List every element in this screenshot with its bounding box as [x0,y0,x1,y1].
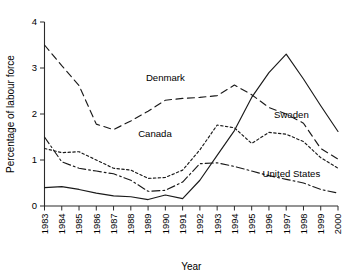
x-tick-label: 1998 [299,214,309,235]
x-axis-title: Year [181,261,202,272]
series-line-denmark [45,45,339,159]
x-tick-label: 1993 [213,214,223,235]
x-tick-label: 1990 [161,214,171,235]
line-chart: 01234 1983198419851986198719881989199019… [0,0,355,276]
x-tick-label: 1997 [282,214,292,235]
chart-container: 01234 1983198419851986198719881989199019… [0,0,355,276]
series-label-sweden: Sweden [274,109,309,120]
series-labels: DenmarkCanadaSwedenUnited States [138,72,320,180]
x-tick-label: 1983 [40,214,50,235]
y-axis-ticks: 01234 [32,16,45,211]
series-label-denmark: Denmark [146,72,185,83]
series-label-canada: Canada [138,128,172,139]
x-axis-ticks: 1983198419851986198719881989199019911992… [40,206,344,234]
x-tick-label: 1996 [264,214,274,235]
x-tick-label: 1986 [92,214,102,235]
y-axis-title: Percentage of labour force [5,55,16,173]
series-line-united-states [45,137,339,193]
y-tick-label: 1 [32,154,37,165]
y-tick-label: 4 [32,16,37,27]
y-tick-label: 2 [32,108,37,119]
x-tick-label: 2000 [333,214,343,235]
x-tick-label: 1994 [230,214,240,235]
x-tick-label: 1984 [57,214,67,235]
x-tick-label: 1995 [247,214,257,235]
y-tick-label: 0 [32,200,37,211]
x-tick-label: 1989 [143,214,153,235]
x-tick-label: 1992 [195,214,205,235]
x-tick-label: 1991 [178,214,188,235]
y-tick-label: 3 [32,62,37,73]
x-tick-label: 1988 [126,214,136,235]
series-label-united-states: United States [263,168,321,179]
x-tick-label: 1987 [109,214,119,235]
x-tick-label: 1985 [74,214,84,235]
x-tick-label: 1999 [316,214,326,235]
